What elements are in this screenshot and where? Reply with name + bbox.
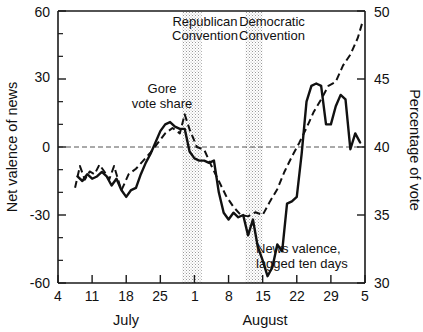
y-left-tick-30: 30 bbox=[34, 69, 50, 85]
chart-svg: 60 30 0 -30 -60 50 45 40 35 30 4 11 18 2… bbox=[0, 0, 423, 332]
dem-label-line2: Convention bbox=[239, 28, 305, 43]
y-right-tick-35: 35 bbox=[374, 207, 390, 223]
y-left-tick-0: 0 bbox=[42, 139, 50, 155]
news-valence-label: News valence, lagged ten days bbox=[256, 241, 348, 271]
x-tick-jul-18: 18 bbox=[118, 288, 134, 304]
x-tick-jul-25: 25 bbox=[152, 288, 168, 304]
dem-label-line1: Democratic bbox=[239, 14, 305, 29]
rep-label-line2: Convention bbox=[172, 28, 238, 43]
y-left-tick-m30: -30 bbox=[30, 207, 50, 223]
x-tick-aug-1: 1 bbox=[191, 288, 199, 304]
republican-convention-label: Republican Convention bbox=[172, 14, 238, 43]
gore-label-line2: vote share bbox=[132, 96, 193, 111]
democratic-convention-label: Democratic Convention bbox=[239, 14, 305, 43]
y-right-tick-45: 45 bbox=[374, 71, 390, 87]
y-left-axis-title: Net valence of news bbox=[4, 82, 20, 213]
x-tick-sep-5: 5 bbox=[361, 288, 369, 304]
news-label-line1: News valence, bbox=[256, 241, 341, 256]
x-tick-aug-15: 15 bbox=[255, 288, 271, 304]
gore-label-line1: Gore bbox=[148, 81, 177, 96]
x-tick-aug-29: 29 bbox=[323, 288, 339, 304]
y-left-tick-60: 60 bbox=[34, 4, 50, 20]
x-tick-aug-22: 22 bbox=[289, 288, 305, 304]
y-left-tick-m60: -60 bbox=[30, 275, 50, 291]
y-right-tick-50: 50 bbox=[374, 4, 390, 20]
y-right-tick-30: 30 bbox=[374, 275, 390, 291]
y-right-axis-title: Percentage of vote bbox=[407, 89, 423, 211]
month-label-august: August bbox=[242, 312, 287, 328]
news-label-line2: lagged ten days bbox=[256, 256, 348, 271]
x-tick-jul-4: 4 bbox=[54, 288, 62, 304]
y-right-tick-40: 40 bbox=[374, 139, 390, 155]
x-tick-aug-8: 8 bbox=[225, 288, 233, 304]
chart-figure: 60 30 0 -30 -60 50 45 40 35 30 4 11 18 2… bbox=[0, 0, 423, 332]
rep-label-line1: Republican bbox=[172, 14, 237, 29]
x-tick-jul-11: 11 bbox=[85, 288, 100, 304]
month-label-july: July bbox=[113, 312, 140, 328]
